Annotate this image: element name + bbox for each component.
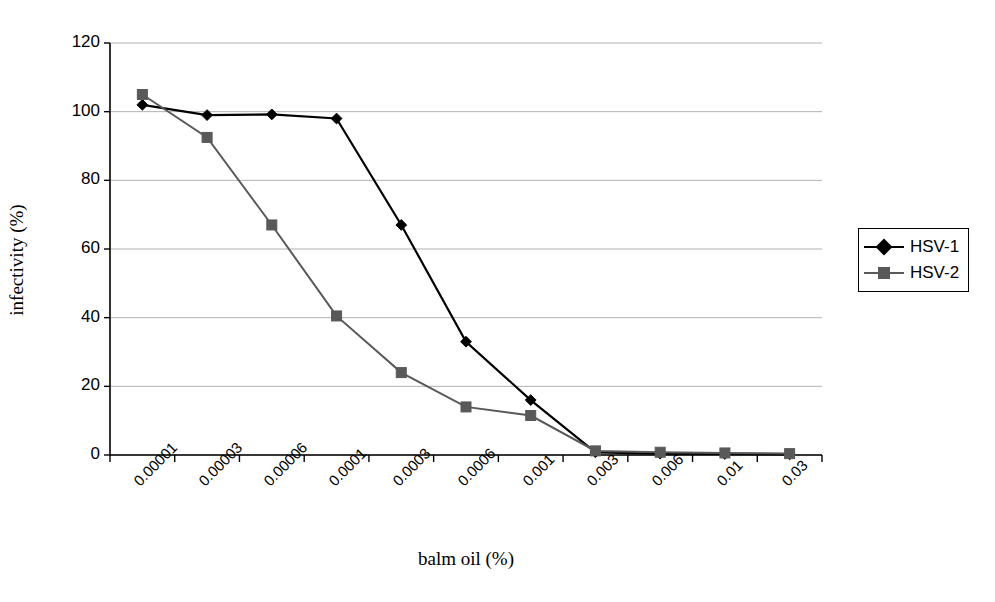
y-axis-tick-label: 80 <box>54 169 100 189</box>
y-axis-title: infectivity (%) <box>6 150 28 370</box>
data-point-marker <box>137 99 148 110</box>
legend-item-hsv-1: HSV-1 <box>864 234 959 260</box>
data-point-marker <box>590 446 600 456</box>
y-axis-tick-label: 100 <box>54 101 100 121</box>
y-axis-tick-label: 20 <box>54 375 100 395</box>
data-point-marker <box>396 220 407 231</box>
legend-label-hsv-1: HSV-1 <box>910 237 959 257</box>
data-point-marker <box>202 132 212 142</box>
y-axis-tick-label: 40 <box>54 307 100 327</box>
y-axis-tick-label: 120 <box>54 32 100 52</box>
data-point-marker <box>332 311 342 321</box>
series-line-hsv-2 <box>142 95 789 454</box>
data-point-marker <box>267 220 277 230</box>
legend-item-hsv-2: HSV-2 <box>864 260 959 286</box>
chart-plot-area <box>0 0 995 602</box>
data-point-marker <box>720 448 730 458</box>
data-point-marker <box>526 411 536 421</box>
data-point-marker <box>785 449 795 459</box>
legend-label-hsv-2: HSV-2 <box>910 263 959 283</box>
x-axis-title: balm oil (%) <box>108 548 824 570</box>
data-point-marker <box>396 368 406 378</box>
data-point-marker <box>461 402 471 412</box>
data-point-marker <box>331 113 342 124</box>
legend-marker-diamond-icon <box>864 239 904 255</box>
chart-container: infectivity (%) balm oil (%) 12010080604… <box>0 0 995 602</box>
data-point-marker <box>655 447 665 457</box>
chart-legend: HSV-1 HSV-2 <box>858 228 969 292</box>
y-axis-tick-label: 60 <box>54 238 100 258</box>
legend-marker-square-icon <box>864 265 904 281</box>
data-point-marker <box>266 109 277 120</box>
data-point-marker <box>137 90 147 100</box>
y-axis-tick-label: 0 <box>54 444 100 464</box>
